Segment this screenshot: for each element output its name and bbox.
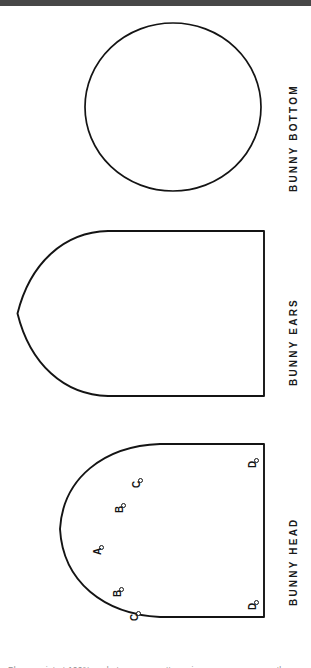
head-marker-label-c-top: C [132, 481, 142, 488]
bunny-head-outline [0, 416, 311, 656]
pattern-sheet: BUNNY BOTTOM BUNNY EARS D C B [0, 6, 311, 668]
bunny-ears-caption: BUNNY EARS [288, 298, 299, 386]
head-marker-label-d-bottom: D [248, 603, 258, 610]
head-marker-label-c-bottom: C [130, 614, 140, 621]
bunny-head-caption: BUNNY HEAD [288, 518, 299, 607]
head-marker-label-b-bottom: B [113, 590, 123, 597]
head-marker-label-b-top: B [115, 506, 125, 513]
bunny-ears-outline [0, 211, 311, 416]
pattern-piece-bunny-ears: BUNNY EARS [0, 211, 311, 416]
head-marker-label-a: A [93, 548, 103, 555]
bunny-bottom-caption: BUNNY BOTTOM [288, 84, 299, 192]
bunny-bottom-outline [0, 6, 311, 211]
head-marker-label-d-top: D [248, 461, 258, 468]
pattern-piece-bunny-head: D C B A B C D BUNNY HEAD [0, 416, 311, 656]
pattern-piece-bunny-bottom: BUNNY BOTTOM [0, 6, 311, 211]
